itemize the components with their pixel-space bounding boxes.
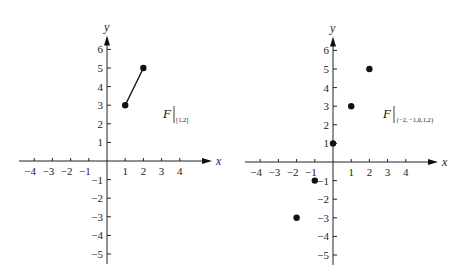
y-tick-label: −4: [317, 230, 329, 242]
plot-left: xy−4−3−2−11234654321−1−2−3−4−5F[1,2]: [19, 20, 222, 264]
function-label: F: [382, 106, 392, 121]
y-tick-label: −3: [317, 212, 329, 224]
y-axis-arrow-icon: [104, 35, 110, 45]
y-tick-label: −4: [91, 229, 103, 241]
data-point: [293, 215, 299, 221]
x-axis-arrow-icon: [202, 158, 212, 164]
figure-root: xy−4−3−2−11234654321−1−2−3−4−5F[1,2] xy−…: [0, 0, 450, 278]
x-tick-label: 4: [177, 165, 183, 177]
function-label: F: [162, 106, 172, 121]
y-axis-label: y: [103, 20, 110, 34]
y-axis-arrow-icon: [330, 36, 336, 46]
y-tick-label: 3: [98, 99, 104, 111]
x-tick-label: −1: [305, 166, 317, 178]
y-tick-label: −5: [317, 249, 329, 261]
data-point: [140, 65, 146, 71]
graph-segment: [125, 68, 143, 105]
x-tick-label: −1: [79, 165, 91, 177]
x-tick-label: 3: [159, 165, 165, 177]
y-tick-label: 1: [324, 137, 330, 149]
y-tick-label: 6: [98, 43, 104, 55]
x-tick-label: −4: [250, 166, 262, 178]
x-axis-label: x: [215, 154, 222, 168]
y-tick-label: −3: [91, 211, 103, 223]
x-tick-label: 4: [403, 166, 409, 178]
y-tick-label: 5: [98, 62, 104, 74]
data-point: [312, 177, 318, 183]
function-label-subscript: {−2, −1,0,1,2}: [396, 116, 434, 124]
y-tick-label: −5: [91, 248, 103, 260]
x-tick-label: −2: [287, 166, 299, 178]
x-tick-label: −4: [24, 165, 36, 177]
y-axis-label: y: [329, 21, 336, 35]
y-tick-label: 2: [98, 118, 104, 130]
data-point: [366, 66, 372, 72]
y-tick-label: 1: [98, 136, 104, 148]
data-point: [348, 103, 354, 109]
x-tick-label: −3: [43, 165, 55, 177]
y-tick-label: −2: [91, 192, 103, 204]
x-tick-label: 1: [122, 165, 128, 177]
y-tick-label: 4: [98, 81, 104, 93]
x-axis-arrow-icon: [428, 159, 438, 165]
x-axis-label: x: [441, 155, 448, 169]
y-tick-label: 6: [324, 44, 330, 56]
data-point: [122, 102, 128, 108]
y-tick-label: −1: [317, 175, 329, 187]
y-tick-label: 2: [324, 119, 330, 131]
x-tick-label: −3: [269, 166, 281, 178]
x-tick-label: 3: [385, 166, 391, 178]
y-tick-label: 4: [324, 82, 330, 94]
y-tick-label: −2: [317, 193, 329, 205]
plot-right: xy−4−3−2−11234654321−1−2−3−4−5F{−2, −1,0…: [245, 21, 448, 265]
y-tick-label: 5: [324, 63, 330, 75]
y-tick-label: −1: [91, 174, 103, 186]
x-tick-label: 2: [367, 166, 373, 178]
x-tick-label: 1: [348, 166, 354, 178]
y-tick-label: 3: [324, 100, 330, 112]
function-label-subscript: [1,2]: [176, 116, 188, 124]
data-point: [330, 140, 336, 146]
x-tick-label: −2: [61, 165, 73, 177]
x-tick-label: 2: [141, 165, 147, 177]
